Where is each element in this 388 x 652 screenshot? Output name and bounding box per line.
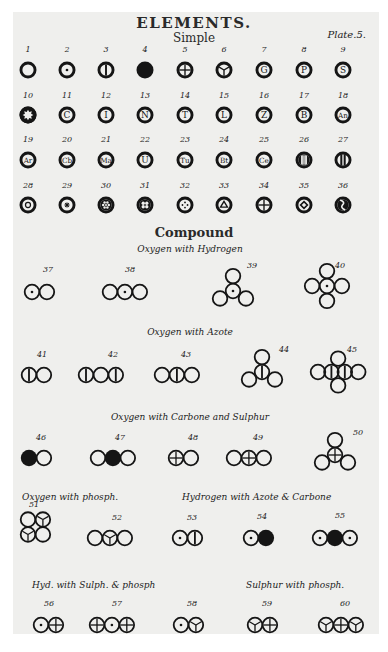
element-number: 14 [180, 91, 190, 100]
vbar-atom-icon [338, 365, 353, 380]
empty-atom-icon [341, 455, 356, 470]
compound-39: 39 [213, 261, 257, 306]
svg-text:S: S [340, 65, 346, 75]
empty-atom-icon [155, 368, 170, 383]
element-number: 21 [100, 135, 111, 144]
element-number: 34 [259, 181, 269, 190]
compound-number: 59 [262, 599, 272, 608]
svg-text:I: I [104, 110, 108, 120]
tri-spoke-atom-icon [189, 618, 204, 633]
svg-text:G: G [260, 65, 267, 75]
svg-text:Cb: Cb [62, 156, 73, 165]
group-label-oxygen-hydrogen: Oxygen with Hydrogen [137, 244, 243, 254]
svg-text:T: T [182, 110, 188, 120]
element-number: 31 [140, 181, 150, 190]
cross-small-atom-icon [257, 198, 271, 212]
element-number: 26 [298, 135, 309, 144]
asterisk-atom-icon [60, 198, 74, 212]
element-number: 17 [299, 91, 310, 100]
element-number: 15 [219, 91, 229, 100]
element-number: 3 [103, 45, 108, 54]
tri-spoke-atom-icon [36, 512, 51, 527]
cross-atom-icon [90, 618, 105, 633]
svg-text:Bt: Bt [220, 156, 228, 165]
element-number: 5 [182, 45, 187, 54]
compound-40: 40 [305, 261, 349, 308]
svg-text:Tu: Tu [180, 156, 190, 165]
vbar-atom-icon [170, 368, 185, 383]
element-number: 12 [101, 91, 111, 100]
compound-number: 37 [43, 265, 54, 274]
letter-atom-icon: N [138, 108, 152, 122]
element-number: 7 [261, 45, 267, 54]
tri-spoke-atom-icon [217, 63, 231, 77]
empty-atom-icon [118, 531, 133, 546]
vbar-atom-icon [324, 365, 339, 380]
two-bars-atom-icon [336, 153, 350, 167]
compound-52: 52 [88, 513, 132, 545]
compound-55: 55 [313, 511, 357, 546]
compound-number: 58 [187, 599, 197, 608]
star-atom-icon [20, 107, 37, 124]
empty-atom-icon [331, 378, 346, 393]
empty-atom-icon [226, 269, 241, 284]
dot-atom-icon [313, 531, 328, 546]
compound-49: 49 [227, 433, 271, 465]
compound-number: 55 [335, 511, 345, 520]
letter-atom-icon: G [257, 63, 271, 77]
element-number: 27 [337, 135, 349, 144]
compound-42: 42 [79, 350, 123, 382]
empty-atom-icon [268, 372, 283, 387]
letter-atom-icon: T [178, 108, 192, 122]
filled-atom-icon [105, 450, 121, 466]
compound-number: 57 [112, 599, 123, 608]
letter-atom-icon: P [297, 63, 311, 77]
element-number: 6 [221, 45, 226, 54]
cross-atom-icon [263, 618, 278, 633]
compound-number: 40 [334, 261, 345, 270]
element-number: 2 [63, 45, 69, 54]
cross-atom-icon [334, 618, 349, 633]
letter-atom-icon: I [99, 108, 113, 122]
element-number: 28 [22, 181, 33, 190]
element-number: 20 [61, 135, 72, 144]
element-number: 24 [218, 135, 229, 144]
compound-56: 56 [34, 599, 63, 632]
section-heading-compound: Compound [155, 225, 234, 240]
compound-number: 39 [247, 261, 257, 270]
empty-atom-icon [227, 451, 242, 466]
svg-text:L: L [221, 110, 227, 120]
empty-atom-icon [36, 527, 51, 542]
compound-51: 51 [21, 500, 50, 542]
compound-number: 52 [112, 513, 122, 522]
letter-atom-icon: U [138, 153, 152, 167]
svg-text:C: C [64, 110, 71, 120]
dot-atom-icon [173, 531, 188, 546]
letter-atom-icon: Z [257, 108, 271, 122]
empty-atom-icon [320, 264, 335, 279]
empty-atom-icon [311, 365, 326, 380]
empty-atom-icon [328, 433, 343, 448]
vbar-atom-icon [188, 531, 203, 546]
compound-number: 51 [29, 500, 39, 509]
empty-atom-icon [239, 291, 254, 306]
empty-atom-icon [213, 291, 228, 306]
dot-atom-icon [25, 285, 40, 300]
empty-atom-icon [320, 294, 335, 309]
element-number: 33 [219, 181, 229, 190]
ring-atom-icon [21, 198, 35, 212]
letter-atom-icon: C [60, 108, 74, 122]
empty-atom-icon [91, 451, 106, 466]
compound-number: 56 [44, 599, 54, 608]
letter-atom-icon: L [217, 108, 231, 122]
compound-number: 47 [114, 433, 126, 442]
vbar-atom-icon [99, 63, 113, 77]
element-number: 25 [258, 135, 269, 144]
element-number: 36 [338, 181, 348, 190]
dot-atom-icon [343, 531, 358, 546]
group-label-oxygen-azote: Oxygen with Azote [147, 327, 233, 337]
svg-text:N: N [141, 110, 149, 120]
letter-atom-icon: B [297, 108, 311, 122]
element-number: 35 [299, 181, 309, 190]
svg-text:Ar: Ar [23, 156, 33, 165]
